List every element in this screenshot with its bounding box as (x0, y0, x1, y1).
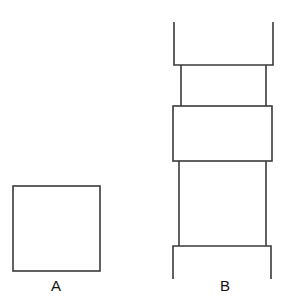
wide-middle-box (173, 106, 272, 161)
label-a: A (51, 277, 61, 294)
top-open-segment (174, 22, 273, 65)
figure-a: A (13, 186, 100, 294)
figure-b: B (173, 22, 273, 294)
bottom-open-segment (173, 246, 271, 279)
square-a (13, 186, 100, 271)
diagram-canvas: A B (0, 0, 289, 308)
label-b: B (220, 277, 230, 294)
